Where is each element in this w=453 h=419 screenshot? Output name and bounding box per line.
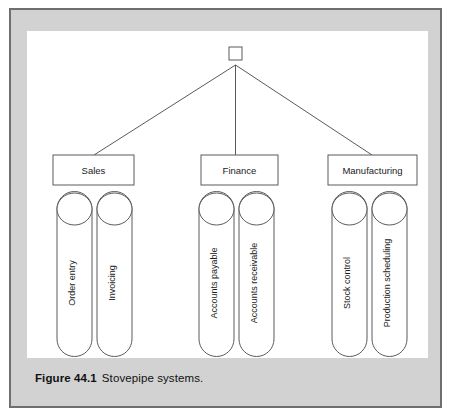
department-label-sales: Sales (82, 165, 106, 176)
figure-caption-text: Stovepipe systems. (102, 372, 204, 384)
pipe-label-stock-control: Stock control (342, 257, 352, 309)
pipe-label-production-scheduling: Production scheduling (382, 239, 392, 328)
stovepipe-diagram: Sales Order entry Invoicing Finance (27, 31, 428, 358)
figure-caption: Figure 44.1Stovepipe systems. (35, 372, 430, 384)
pipe-label-accounts-payable: Accounts payable (209, 247, 219, 318)
figure-page: Sales Order entry Invoicing Finance (0, 0, 453, 419)
diagram-canvas: Sales Order entry Invoicing Finance (27, 31, 428, 358)
connector-root-to-sales (94, 65, 236, 155)
figure-card: Sales Order entry Invoicing Finance (9, 8, 442, 408)
root-node-square[interactable] (229, 47, 242, 60)
connector-root-to-manufacturing (236, 65, 373, 155)
department-label-manufacturing: Manufacturing (342, 165, 402, 176)
pipe-top-production-scheduling (372, 193, 407, 225)
pipe-label-accounts-receivable: Accounts receivable (249, 243, 259, 324)
pipe-label-invoicing: Invoicing (107, 265, 117, 301)
pipe-top-invoicing (97, 193, 132, 225)
pipe-label-order-entry: Order entry (67, 260, 77, 306)
pipe-top-accounts-payable (199, 193, 234, 225)
figure-caption-number: Figure 44.1 (35, 372, 97, 384)
pipe-top-stock-control (332, 193, 367, 225)
pipe-top-order-entry (57, 193, 92, 225)
department-label-finance: Finance (223, 165, 257, 176)
pipe-top-accounts-receivable (239, 193, 274, 225)
